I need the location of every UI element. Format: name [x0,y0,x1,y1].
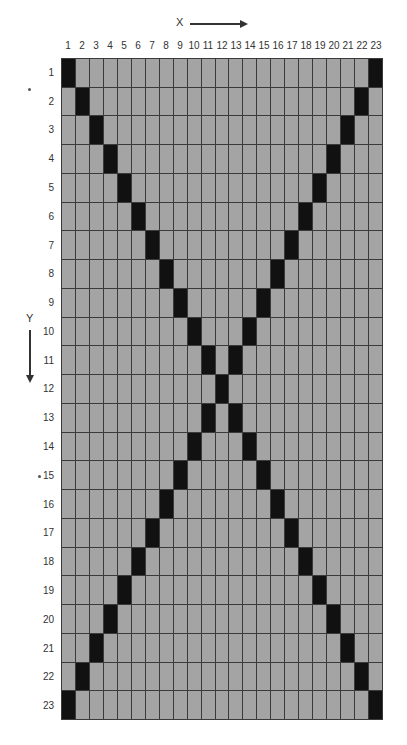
grid-cell [216,318,229,346]
grid-cell [104,576,117,604]
grid-cell [118,634,131,662]
row-label: 7 [20,231,54,260]
grid-cell [271,145,284,173]
grid-cell [285,548,298,576]
grid-cell [132,346,145,374]
column-labels: 1234567891011121314151617181920212223 [61,40,383,54]
grid-cell [90,289,103,317]
grid-cell [341,433,354,461]
grid-cell [160,174,173,202]
grid-cell [160,346,173,374]
grid-cell [202,145,215,173]
grid-cell [355,433,368,461]
grid-cell [132,59,145,87]
grid-cell [160,59,173,87]
grid-cell [146,605,159,633]
grid-cell [229,461,242,489]
column-label: 21 [341,40,355,54]
column-label: 9 [173,40,187,54]
grid-cell-filled [243,433,256,461]
grid-cell [313,691,326,719]
column-label: 1 [61,40,75,54]
grid-cell-filled [132,548,145,576]
grid-cell [243,59,256,87]
grid-cell [271,663,284,691]
grid-cell [341,490,354,518]
grid-cell [216,59,229,87]
grid-cell [76,404,89,432]
grid-cell [202,88,215,116]
grid-cell [132,576,145,604]
grid-cell [285,404,298,432]
grid-cell [160,634,173,662]
grid-cell [285,576,298,604]
grid-cell [160,461,173,489]
grid-cell-filled [355,88,368,116]
grid-cell [285,203,298,231]
grid-cell [104,88,117,116]
grid-cell-filled [285,231,298,259]
grid-cell [104,318,117,346]
grid-cell [355,289,368,317]
column-label: 16 [271,40,285,54]
grid-cell [216,663,229,691]
grid-cell [76,548,89,576]
grid-cell [146,145,159,173]
grid-cell [341,59,354,87]
grid-cell [243,663,256,691]
grid-cell [299,318,312,346]
grid-cell [313,461,326,489]
grid-cell [132,375,145,403]
row-label: 3 [20,116,54,145]
grid-cell [146,346,159,374]
grid-cell-filled [257,289,270,317]
grid-cell [271,634,284,662]
row-label: 1 [20,58,54,87]
grid-cell [132,605,145,633]
grid-cell [90,203,103,231]
grid-cell [104,203,117,231]
grid-cell [299,663,312,691]
grid-cell [341,548,354,576]
grid-cell [188,88,201,116]
grid-cell-filled [76,663,89,691]
grid-cell [188,375,201,403]
grid-cell [341,88,354,116]
grid-cell [76,605,89,633]
grid-cell [313,346,326,374]
grid-cell [174,375,187,403]
grid-cell [355,260,368,288]
column-label: 23 [369,40,383,54]
grid-cell [285,663,298,691]
grid-cell [355,116,368,144]
grid-cell [146,461,159,489]
grid-cell [174,490,187,518]
grid-cell [76,318,89,346]
grid-cell [369,490,382,518]
grid-cell [90,404,103,432]
grid-cell [146,663,159,691]
grid-cell [202,663,215,691]
grid-cell [188,634,201,662]
grid-cell [369,461,382,489]
grid-cell [243,404,256,432]
grid-cell [62,260,75,288]
grid-cell [243,519,256,547]
grid-cell [257,203,270,231]
grid-cell-filled [327,605,340,633]
grid-cell [174,519,187,547]
grid-cell [202,461,215,489]
grid-cell [229,548,242,576]
grid-cell [62,203,75,231]
grid-cell [243,289,256,317]
grid-cell [369,663,382,691]
grid-cell-filled [327,145,340,173]
grid-cell-filled [271,490,284,518]
grid-cell [160,691,173,719]
grid-cell [174,663,187,691]
grid-cell-filled [160,260,173,288]
grid-cell-filled [188,318,201,346]
grid-cell [132,318,145,346]
grid-cell [160,605,173,633]
grid-cell [188,346,201,374]
